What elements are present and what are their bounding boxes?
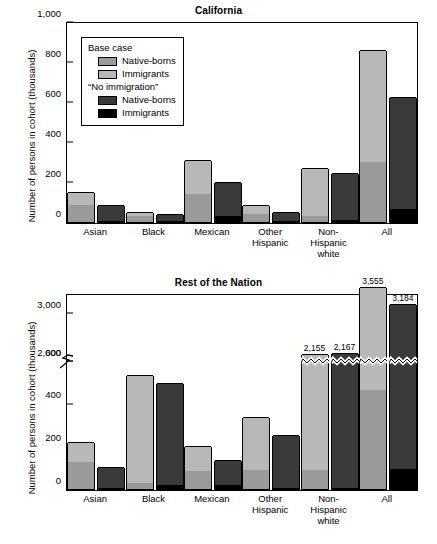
y-axis-tick-label-rest-of-nation-3000: 3,000 bbox=[37, 298, 67, 309]
chart-panel-california: California Number of persons in cohort (… bbox=[0, 0, 437, 272]
y-axis-tick-label-california-400: 400 bbox=[45, 127, 67, 138]
bar-segment-base-case-immigrants bbox=[302, 168, 328, 216]
bar-segment-no-immigration-native-borns bbox=[273, 212, 299, 221]
x-axis-label-california-black: Black bbox=[124, 226, 182, 237]
y-axis-tick-label-california-600: 600 bbox=[45, 87, 67, 98]
bar-segment-no-immigration-immigrants bbox=[332, 220, 358, 222]
bar-california-other-hispanic-no-immigration[interactable] bbox=[272, 213, 300, 223]
y-axis-tick-label-california-200: 200 bbox=[45, 167, 67, 178]
bar-rest-of-nation-non-hispanic-white-no-immigration[interactable] bbox=[331, 354, 359, 490]
legend-swatch-icon bbox=[98, 70, 117, 79]
y-axis-tick-label-rest-of-nation-200: 200 bbox=[45, 431, 67, 442]
x-axis-label-california-non-hispanic-white: Non- Hispanic white bbox=[299, 226, 357, 259]
bar-rest-of-nation-black-base-case[interactable] bbox=[126, 376, 154, 490]
y-axis-tick-mark bbox=[67, 313, 73, 314]
legend-item-label: Immigrants bbox=[122, 68, 169, 80]
bar-rest-of-nation-mexican-no-immigration[interactable] bbox=[214, 461, 242, 490]
bar-california-mexican-no-immigration[interactable] bbox=[214, 183, 242, 223]
bar-segment-base-case-immigrants bbox=[68, 192, 94, 205]
bar-california-other-hispanic-base-case[interactable] bbox=[242, 206, 270, 223]
bar-segment-base-case-immigrants bbox=[127, 375, 153, 483]
bar-segment-no-immigration-native-borns bbox=[98, 205, 124, 221]
bar-rest-of-nation-all-base-case[interactable] bbox=[359, 288, 387, 490]
y-axis-tick-mark bbox=[67, 142, 73, 143]
bar-break-mark-non-hispanic-white-no-immigration bbox=[331, 356, 359, 367]
chart-panel-rest-of-nation: Rest of the Nation Number of persons in … bbox=[0, 272, 437, 544]
legend-base-immigrants[interactable]: Immigrants bbox=[98, 68, 176, 80]
bar-california-all-base-case[interactable] bbox=[359, 51, 387, 223]
bar-segment-no-immigration-native-borns bbox=[332, 173, 358, 220]
bar-segment-base-case-native-borns bbox=[302, 216, 328, 222]
y-axis-break-mark bbox=[60, 354, 74, 370]
bar-california-asian-no-immigration[interactable] bbox=[97, 206, 125, 223]
bar-rest-of-nation-all-no-immigration[interactable] bbox=[389, 305, 417, 490]
bar-segment-no-immigration-native-borns bbox=[157, 383, 183, 485]
bar-segment-base-case-immigrants bbox=[302, 354, 328, 470]
bar-california-mexican-base-case[interactable] bbox=[184, 161, 212, 223]
y-axis-tick-label-california-1000: 1,000 bbox=[37, 7, 67, 18]
x-axis-label-rest-of-nation-non-hispanic-white: Non- Hispanic white bbox=[299, 493, 357, 526]
legend-group-title-base-case: Base case bbox=[88, 42, 176, 54]
bar-break-mark-all-no-immigration bbox=[389, 356, 417, 367]
y-axis-tick-label-rest-of-nation-0: 0 bbox=[56, 474, 67, 485]
bar-segment-base-case-native-borns bbox=[68, 462, 94, 489]
bar-segment-base-case-immigrants bbox=[185, 160, 211, 194]
bar-rest-of-nation-non-hispanic-white-base-case[interactable] bbox=[301, 355, 329, 490]
bar-segment-no-immigration-immigrants bbox=[273, 488, 299, 489]
x-axis-label-california-mexican: Mexican bbox=[183, 226, 241, 237]
bar-segment-base-case-native-borns bbox=[243, 470, 269, 489]
bar-california-non-hispanic-white-no-immigration[interactable] bbox=[331, 174, 359, 223]
bar-segment-no-immigration-native-borns bbox=[273, 435, 299, 488]
bar-california-black-no-immigration[interactable] bbox=[156, 215, 184, 223]
y-axis-tick-mark bbox=[67, 182, 73, 183]
x-axis-label-california-all: All bbox=[358, 226, 416, 237]
legend-noimm-immigrants[interactable]: Immigrants bbox=[98, 107, 176, 119]
bar-segment-no-immigration-immigrants bbox=[273, 221, 299, 222]
bar-segment-base-case-native-borns bbox=[302, 470, 328, 489]
x-axis-label-rest-of-nation-mexican: Mexican bbox=[183, 493, 241, 504]
bar-california-non-hispanic-white-base-case[interactable] bbox=[301, 169, 329, 223]
data-label-all-no-immigration: 3,184 bbox=[381, 293, 425, 303]
y-axis-tick-mark bbox=[67, 403, 73, 404]
bar-segment-base-case-native-borns bbox=[243, 214, 269, 222]
bar-segment-no-immigration-immigrants bbox=[98, 488, 124, 489]
bar-segment-base-case-immigrants bbox=[243, 417, 269, 470]
x-axis-label-california-other-hispanic: Other Hispanic bbox=[241, 226, 299, 248]
legend-swatch-icon bbox=[98, 109, 117, 118]
bar-segment-no-immigration-immigrants bbox=[98, 221, 124, 222]
bar-segment-base-case-native-borns bbox=[360, 162, 386, 222]
bar-segment-base-case-immigrants bbox=[127, 212, 153, 216]
bar-segment-no-immigration-native-borns bbox=[215, 460, 241, 486]
bar-segment-no-immigration-native-borns bbox=[390, 97, 416, 209]
bar-segment-no-immigration-immigrants bbox=[215, 216, 241, 222]
bar-rest-of-nation-asian-base-case[interactable] bbox=[67, 443, 95, 490]
legend-swatch-icon bbox=[98, 57, 117, 66]
bar-rest-of-nation-asian-no-immigration[interactable] bbox=[97, 468, 125, 490]
bar-segment-no-immigration-native-borns bbox=[390, 304, 416, 469]
x-axis-label-rest-of-nation-all: All bbox=[358, 493, 416, 504]
bar-segment-base-case-native-borns bbox=[68, 205, 94, 222]
bar-rest-of-nation-mexican-base-case[interactable] bbox=[184, 447, 212, 490]
bar-california-black-base-case[interactable] bbox=[126, 213, 154, 223]
legend-noimm-native-borns[interactable]: Native-borns bbox=[98, 94, 176, 106]
bar-california-asian-base-case[interactable] bbox=[67, 193, 95, 223]
legend-base-native-borns[interactable]: Native-borns bbox=[98, 55, 176, 67]
bar-rest-of-nation-other-hispanic-no-immigration[interactable] bbox=[272, 436, 300, 490]
bar-rest-of-nation-black-no-immigration[interactable] bbox=[156, 384, 184, 490]
chart-legend: Base caseNative-bornsImmigrants“No immig… bbox=[81, 37, 184, 126]
x-axis-label-rest-of-nation-other-hispanic: Other Hispanic bbox=[241, 493, 299, 515]
legend-item-label: Native-borns bbox=[122, 94, 176, 106]
bar-california-all-no-immigration[interactable] bbox=[389, 98, 417, 223]
bar-segment-base-case-immigrants bbox=[68, 442, 94, 462]
y-axis-label-rest-of-nation: Number of persons in cohort (thousands) bbox=[26, 322, 37, 495]
y-axis-tick-label-rest-of-nation-400: 400 bbox=[45, 389, 67, 400]
bar-segment-no-immigration-immigrants bbox=[215, 485, 241, 489]
bar-break-mark-all-base-case bbox=[359, 356, 387, 367]
bar-segment-base-case-native-borns bbox=[127, 483, 153, 489]
bar-segment-base-case-native-borns bbox=[185, 194, 211, 222]
bar-rest-of-nation-other-hispanic-base-case[interactable] bbox=[242, 418, 270, 490]
bar-segment-no-immigration-native-borns bbox=[98, 467, 124, 488]
x-axis-label-rest-of-nation-black: Black bbox=[124, 493, 182, 504]
bar-segment-base-case-native-borns bbox=[360, 390, 386, 489]
bar-segment-base-case-immigrants bbox=[185, 446, 211, 471]
